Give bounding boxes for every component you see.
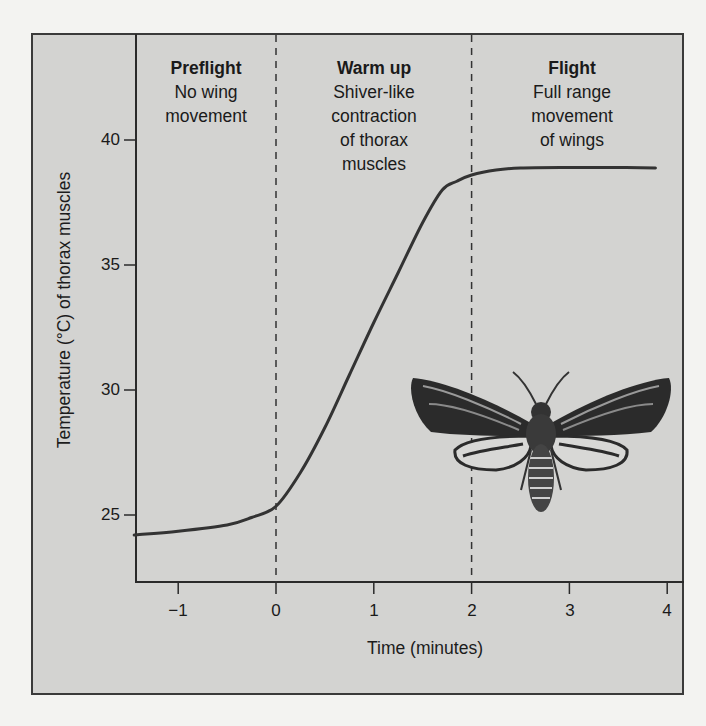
y-axis-label: Temperature (°C) of thorax muscles [54,172,75,448]
phase-desc-line: No wing [121,80,291,104]
y-tick-label: 40 [86,130,120,150]
phase-title: Preflight [121,56,291,80]
phase-desc-line: movement [121,104,291,128]
phase-title: Warm up [289,56,459,80]
phase-title: Flight [487,56,657,80]
x-axis-label: Time (minutes) [325,638,525,659]
annotation-preflight: Preflight No wing movement [121,56,291,128]
phase-desc-line: of wings [487,128,657,152]
x-ticks [178,582,667,594]
y-ticks [124,140,136,515]
x-tick-label: 4 [647,601,687,621]
phase-desc-line: Shiver-like [289,80,459,104]
x-tick-label: 0 [256,601,296,621]
phase-desc-line: Full range [487,80,657,104]
x-tick-label: −1 [158,601,198,621]
phase-desc-line: muscles [289,152,459,176]
phase-desc-line: contraction [289,104,459,128]
y-tick-label: 35 [86,255,120,275]
y-tick-label: 25 [86,505,120,525]
phase-desc-line: movement [487,104,657,128]
x-tick-label: 1 [354,601,394,621]
annotation-flight: Flight Full range movement of wings [487,56,657,152]
phase-desc-line: of thorax [289,128,459,152]
moth-illustration [411,372,671,512]
temperature-curve [134,167,655,535]
y-tick-label: 30 [86,380,120,400]
annotation-warm-up: Warm up Shiver-like contraction of thora… [289,56,459,176]
x-tick-label: 2 [452,601,492,621]
x-tick-label: 3 [550,601,590,621]
